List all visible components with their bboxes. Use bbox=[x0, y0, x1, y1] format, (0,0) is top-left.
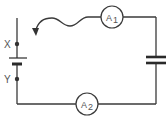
ammeter-a2-label: A bbox=[81, 100, 87, 110]
ammeter-a1-label: A bbox=[106, 13, 112, 23]
arrow-head-icon bbox=[32, 28, 39, 36]
terminal-x-dot bbox=[15, 42, 19, 46]
terminal-x-label: X bbox=[4, 39, 11, 50]
flying-lead-wire bbox=[36, 17, 101, 30]
terminal-y-dot bbox=[15, 77, 19, 81]
ammeter-a2: A 2 bbox=[76, 93, 98, 115]
ammeter-a2-subscript: 2 bbox=[88, 102, 93, 112]
circuit-diagram: X Y A 1 A 2 bbox=[0, 0, 166, 118]
terminal-y-label: Y bbox=[4, 74, 11, 85]
ammeter-a1-subscript: 1 bbox=[113, 15, 118, 25]
ammeter-a1: A 1 bbox=[101, 6, 123, 28]
